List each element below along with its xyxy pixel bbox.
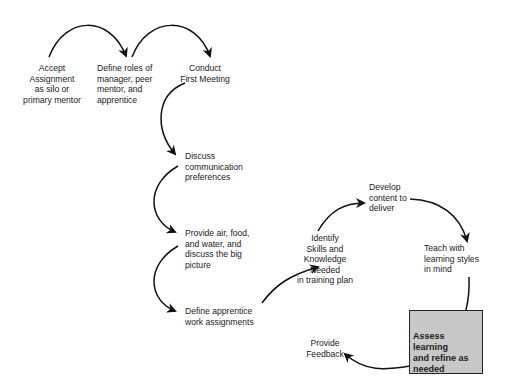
step-provide-feedback: Provide Feedback — [300, 338, 350, 359]
step-assess-learning-box: Assess learning and refine as needed — [409, 310, 483, 374]
arrow-communication-to-bigpicture — [154, 166, 178, 232]
step-identify-skills: Identify Skills and Knowledge Needed in … — [288, 233, 362, 286]
step-teach: Teach with learning styles in mind — [424, 243, 494, 275]
step-develop-content: Develop content to deliver — [369, 182, 429, 214]
step-provide-air-food-water: Provide air, food, and water, and discus… — [185, 228, 265, 270]
arrow-bigpicture-to-work — [154, 246, 178, 311]
arrow-assess-to-feedback — [345, 354, 410, 369]
step-conduct-first-meeting: Conduct First Meeting — [170, 63, 240, 84]
step-accept-assignment: Accept Assignment as silo or primary men… — [22, 63, 82, 105]
arrow-define-to-meeting — [132, 25, 210, 57]
step-assess-learning: Assess learning and refine as needed — [410, 331, 482, 375]
step-discuss-communication: Discuss communication preferences — [185, 151, 265, 183]
arrow-accept-to-define — [49, 25, 126, 57]
step-define-work-assignments: Define apprentice work assignments — [185, 306, 275, 327]
arrow-identify-to-develop — [318, 203, 364, 231]
step-define-roles: Define roles of manager, peer mentor, an… — [97, 63, 167, 105]
